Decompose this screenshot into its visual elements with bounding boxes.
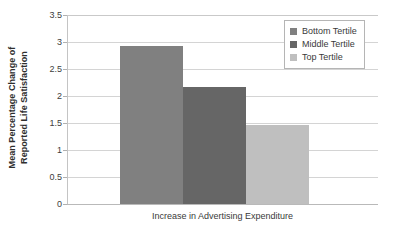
y-axis-tick-label: 3	[36, 37, 62, 47]
legend-item-label: Middle Tertile	[302, 38, 355, 51]
legend-item[interactable]: Middle Tertile	[290, 38, 357, 51]
y-axis-tick	[63, 204, 67, 205]
bar-chart: Mean Percentage Change of Reported Life …	[0, 0, 399, 235]
legend-swatch-icon	[290, 54, 297, 61]
y-axis-title-line-2: Reported Life Satisfaction	[19, 47, 31, 169]
y-axis-tick-label: 3.5	[36, 10, 62, 20]
legend-item[interactable]: Bottom Tertile	[290, 25, 357, 38]
y-axis-tick-label: 1	[36, 145, 62, 155]
y-axis-tick-labels: 00.511.522.533.5	[38, 15, 66, 204]
x-axis-label: Increase in Advertising Expenditure	[67, 211, 378, 221]
y-axis-tick-label: 1.5	[36, 118, 62, 128]
y-axis-tick-label: 2.5	[36, 64, 62, 74]
bar-middle-tertile	[183, 87, 246, 204]
legend-item[interactable]: Top Tertile	[290, 51, 357, 64]
legend-item-label: Top Tertile	[302, 51, 343, 64]
y-axis-title-line-1: Mean Percentage Change of	[8, 47, 20, 169]
legend-swatch-icon	[290, 41, 297, 48]
legend: Bottom TertileMiddle TertileTop Tertile	[284, 20, 365, 69]
bar-top-tertile	[246, 125, 309, 204]
legend-item-label: Bottom Tertile	[302, 25, 357, 38]
y-axis-tick-label: 0.5	[36, 172, 62, 182]
y-axis-tick-label: 2	[36, 91, 62, 101]
legend-swatch-icon	[290, 28, 297, 35]
y-axis-tick-label: 0	[36, 199, 62, 209]
bar-bottom-tertile	[120, 46, 183, 204]
y-axis-title: Mean Percentage Change of Reported Life …	[0, 0, 38, 215]
gridline	[67, 204, 378, 205]
